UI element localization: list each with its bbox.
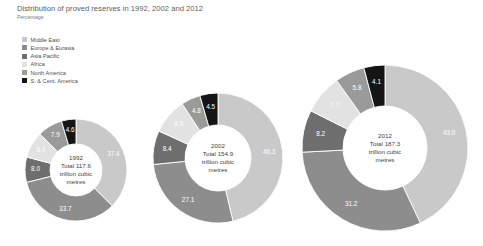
legend-swatch-icon	[22, 78, 27, 83]
slice-value-label: 31.2	[345, 200, 358, 207]
slice-value-label: 8.2	[316, 130, 325, 137]
donut-chart-2002: 46.327.18.48.94.84.52002Total 154.9trill…	[150, 90, 286, 226]
legend-item-s-cent-america: S. & Cent. America	[22, 77, 152, 85]
legend-swatch-icon	[22, 37, 27, 42]
legend-item-europe-eurasia: Europe & Eurasia	[22, 44, 152, 52]
slice-value-label: 8.0	[31, 165, 40, 172]
donut-slice-middle-east[interactable]	[76, 119, 127, 206]
slice-value-label: 4.1	[372, 78, 381, 85]
donut-slice-europe-eurasia[interactable]	[302, 150, 420, 231]
slice-value-label: 7.9	[51, 131, 60, 138]
donut-slice-europe-eurasia[interactable]	[153, 161, 233, 223]
slice-value-label: 27.1	[182, 196, 195, 203]
legend-item-asia-pacific: Asia Pacific	[22, 52, 152, 60]
donut-chart-1992: 37.433.78.08.47.94.61992Total 117.6trill…	[22, 116, 130, 224]
legend-swatch-icon	[22, 45, 27, 50]
legend-swatch-icon	[22, 70, 27, 75]
legend-item-middle-east: Middle East	[22, 36, 152, 44]
page-title: Distribution of proved reserves in 1992,…	[17, 4, 203, 13]
legend-swatch-icon	[22, 54, 27, 59]
legend-item-label: North America	[31, 70, 66, 76]
slice-value-label: 46.3	[263, 148, 276, 155]
slice-value-label: 4.8	[192, 107, 201, 114]
legend-item-label: S. & Cent. America	[31, 78, 78, 84]
legend-item-label: Asia Pacific	[31, 53, 60, 59]
slice-value-label: 33.7	[59, 205, 72, 212]
legend-item-north-america: North America	[22, 69, 152, 77]
chart-legend: Middle EastEurope & EurasiaAsia PacificA…	[22, 36, 152, 85]
slice-value-label: 5.8	[353, 84, 362, 91]
slice-value-label: 8.4	[163, 145, 172, 152]
slice-value-label: 37.4	[107, 150, 120, 157]
slice-value-label: 4.6	[66, 126, 75, 133]
slice-value-label: 43.0	[443, 129, 456, 136]
page-subtitle: Percentage	[17, 14, 44, 20]
legend-item-africa: Africa	[22, 61, 152, 69]
legend-item-label: Africa	[31, 61, 45, 67]
figure-canvas: Distribution of proved reserves in 1992,…	[0, 0, 483, 246]
legend-swatch-icon	[22, 62, 27, 67]
legend-item-label: Middle East	[31, 37, 60, 43]
slice-value-label: 7.7	[331, 101, 340, 108]
slice-value-label: 8.9	[174, 120, 183, 127]
slice-value-label: 4.5	[206, 103, 215, 110]
slice-value-label: 8.4	[36, 146, 45, 153]
donut-chart-2012: 43.031.28.27.75.84.12012Total 187.3trill…	[299, 62, 471, 234]
legend-item-label: Europe & Eurasia	[31, 45, 75, 51]
